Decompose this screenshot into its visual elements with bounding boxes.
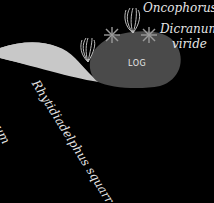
- moss-tuft-icon: [125, 8, 140, 33]
- label-viride: viride: [172, 38, 207, 50]
- moss-log-diagram: LOG Oncophorus Dicranum viride Rhytidiad…: [0, 0, 214, 203]
- star-moss-icon: [141, 27, 157, 43]
- label-oncophorus: Oncophorus: [143, 2, 214, 14]
- slope-shape-lower: [0, 42, 100, 82]
- label-dicranum: Dicranum: [160, 23, 214, 35]
- star-moss-icon: [104, 27, 120, 43]
- log-label: LOG: [128, 60, 146, 68]
